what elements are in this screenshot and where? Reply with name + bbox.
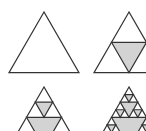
iteration-0-panel <box>9 12 79 73</box>
iteration-2-panel <box>9 87 79 131</box>
iteration-3-panel <box>94 87 146 131</box>
iteration-1-panel <box>94 12 146 73</box>
sierpinski-diagram <box>0 0 146 131</box>
outer-triangle <box>9 12 79 73</box>
